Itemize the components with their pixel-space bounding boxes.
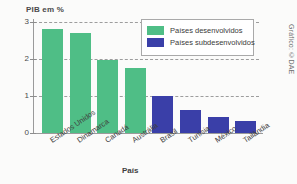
legend-label: Países subdesenvolvidos: [170, 39, 255, 47]
chart-legend: Países desenvolvidosPaíses subdesenvolvi…: [141, 19, 254, 56]
y-tick-label: 0: [17, 129, 29, 137]
legend-item: Países desenvolvidos: [147, 26, 248, 35]
y-tick-label: 1: [17, 92, 29, 100]
legend-swatch: [147, 38, 164, 47]
legend-label: Países desenvolvidos: [170, 27, 243, 35]
y-tick-label: 2: [17, 55, 29, 63]
x-axis-title: País: [122, 166, 138, 175]
bar: [42, 29, 63, 133]
chart-figure: PIB em % 0123 Estados UnidosDinamarcaCan…: [0, 0, 297, 184]
y-tick-label: 3: [17, 18, 29, 26]
credit-text: Gráfico: ©DAE: [288, 24, 295, 74]
y-axis-title: PIB em %: [26, 5, 64, 14]
bar: [125, 68, 146, 133]
y-tick-mark: [30, 133, 36, 134]
legend-item: Países subdesenvolvidos: [147, 38, 248, 47]
legend-swatch: [147, 26, 164, 35]
